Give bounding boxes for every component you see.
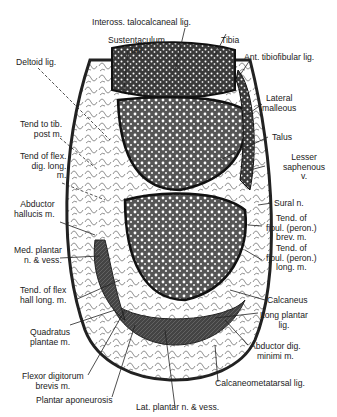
label-interosseous-talocalcaneal-ligament: Inteross. talocalcaneal lig.: [92, 18, 191, 28]
label-sustentaculum-tali: Sustentaculum tali: [108, 36, 165, 55]
label-tendon-fibularis-brevis: Tend. of fibul. (peron.) brev. m.: [266, 214, 317, 243]
label-deltoid-ligament: Deltoid lig.: [16, 58, 56, 68]
label-tendon-flexor-digitorum-longus: Tend of flex. dig. long. m.: [20, 152, 66, 181]
label-abductor-digiti-minimi: Abductor dig. minimi m.: [250, 342, 301, 361]
label-lateral-plantar-nerve-vessels: Lat. plantar n. & vess.: [136, 403, 219, 413]
label-tibia: Tibia: [221, 36, 239, 46]
label-medial-plantar-nerve-vessels: Med. plantar n. & vess.: [14, 246, 62, 265]
label-plantar-aponeurosis: Plantar aponeurosis: [36, 396, 112, 406]
label-lateral-malleolus: Lateral malleous: [262, 94, 296, 113]
label-flexor-digitorum-brevis: Flexor digitorum brevis m.: [22, 372, 84, 391]
label-calcaneometatarsal-ligament: Calcaneometatarsal lig.: [215, 379, 305, 389]
label-quadratus-plantae: Quadratus plantae m.: [30, 328, 70, 347]
label-tendon-fibularis-longus: Tend. of fibul. (peron.) long. m.: [266, 244, 317, 273]
label-abductor-hallucis: Abductor hallucis m.: [14, 200, 55, 219]
label-anterior-tibiofibular-ligament: Ant. tibiofibular lig.: [244, 53, 314, 63]
label-talus: Talus: [272, 133, 292, 143]
label-tendon-flexor-hallucis-longus: Tend. of flex hall long. m.: [20, 286, 66, 305]
label-tendon-tibialis-posterior: Tend to tib. post m.: [20, 120, 62, 139]
label-calcaneus: Calcaneus: [267, 296, 308, 306]
label-long-plantar-ligament: Long plantar lig.: [260, 311, 308, 330]
label-sural-nerve: Sural n.: [274, 199, 304, 209]
label-lesser-saphenous-vein: Lesser saphenous v.: [283, 153, 325, 182]
